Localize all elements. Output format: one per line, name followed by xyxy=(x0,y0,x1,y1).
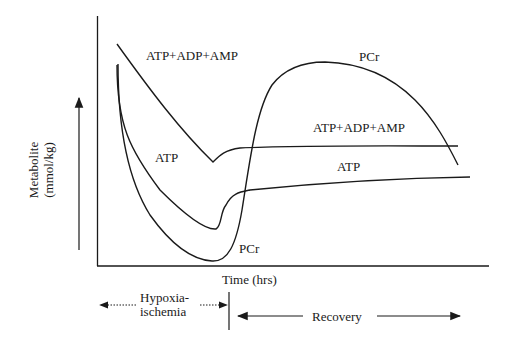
label-pcr-bottom: PCr xyxy=(239,241,260,256)
label-pcr-top: PCr xyxy=(359,49,380,64)
phase-label-hypoxia-line2: ischemia xyxy=(140,304,186,319)
label-total-adenine-top: ATP+ADP+AMP xyxy=(146,48,238,63)
label-total-adenine-recovery: ATP+ADP+AMP xyxy=(313,120,405,135)
label-atp-recovery: ATP xyxy=(337,159,360,174)
metabolite-time-course-diagram: Metabolite (mmol/kg) ATP+ADP+AMP PCr ATP… xyxy=(0,0,511,346)
x-axis-label: Time (hrs) xyxy=(222,272,277,287)
phase-label-recovery: Recovery xyxy=(312,309,362,324)
phase-label-hypoxia-line1: Hypoxia- xyxy=(140,290,189,305)
label-atp-left: ATP xyxy=(155,150,178,165)
y-axis-label-line2: (mmol/kg) xyxy=(41,142,56,198)
y-axis-label-line1: Metabolite xyxy=(26,142,41,199)
